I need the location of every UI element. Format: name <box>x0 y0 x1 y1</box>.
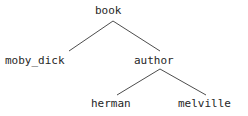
edge-book-moby_dick <box>69 21 113 51</box>
tree-node-melville: melville <box>178 97 231 110</box>
tree-node-moby-dick: moby_dick <box>5 54 65 67</box>
tree-node-book: book <box>95 4 122 17</box>
edge-book-author <box>113 21 160 51</box>
edge-author-herman <box>117 69 160 95</box>
tree-diagram: book moby_dick author herman melville <box>0 0 248 116</box>
tree-node-author: author <box>134 54 174 67</box>
edge-author-melville <box>160 69 206 95</box>
tree-node-herman: herman <box>91 97 131 110</box>
